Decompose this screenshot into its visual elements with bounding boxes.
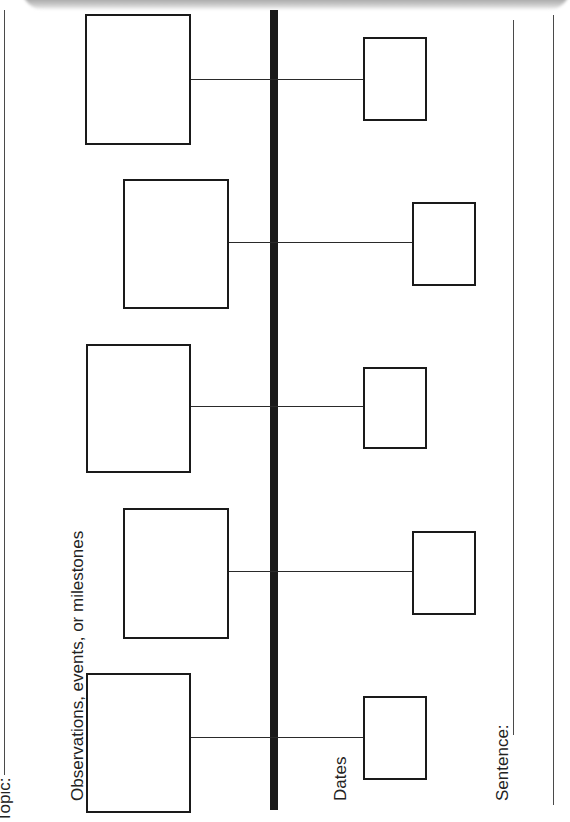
event-box-4[interactable] xyxy=(123,508,229,639)
event-box-5[interactable] xyxy=(86,673,191,813)
topic-label: Topic: xyxy=(0,778,14,822)
observations-label: Observations, events, or milestones xyxy=(69,531,87,801)
date-box-5[interactable] xyxy=(363,696,427,780)
page-edge-shadow xyxy=(22,0,570,10)
event-box-1[interactable] xyxy=(85,14,191,145)
dates-label: Dates xyxy=(332,757,350,801)
date-box-1[interactable] xyxy=(363,37,427,121)
connector-5 xyxy=(191,737,363,738)
date-box-4[interactable] xyxy=(412,531,476,615)
sentence-answer-line-1[interactable] xyxy=(513,20,514,735)
topic-answer-line[interactable] xyxy=(4,10,5,775)
timeline-spine xyxy=(270,10,278,810)
event-box-3[interactable] xyxy=(86,344,191,473)
connector-3 xyxy=(191,406,363,407)
date-box-2[interactable] xyxy=(412,202,476,286)
sentence-answer-line-2[interactable] xyxy=(553,15,554,805)
date-box-3[interactable] xyxy=(363,367,427,449)
connector-1 xyxy=(191,79,363,80)
connector-4 xyxy=(229,571,412,572)
event-box-2[interactable] xyxy=(123,179,229,309)
connector-2 xyxy=(229,242,412,243)
sentence-label: Sentence: xyxy=(494,724,512,801)
